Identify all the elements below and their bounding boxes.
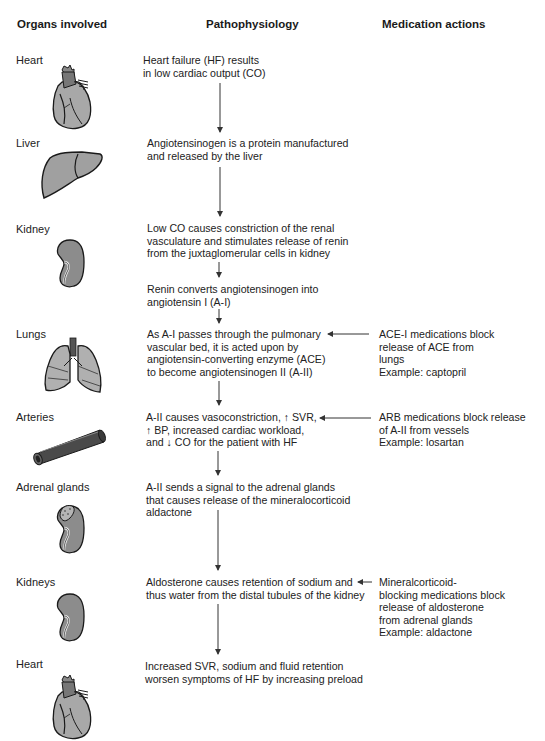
adrenal-kidney-icon: [54, 502, 86, 556]
heart-icon: [48, 674, 98, 741]
lungs-icon: [42, 336, 104, 396]
heart-icon: [48, 64, 98, 132]
kidney-icon: [54, 592, 86, 644]
kidney-icon: [54, 238, 86, 290]
liver-icon: [38, 150, 106, 202]
artery-icon: [28, 424, 110, 466]
